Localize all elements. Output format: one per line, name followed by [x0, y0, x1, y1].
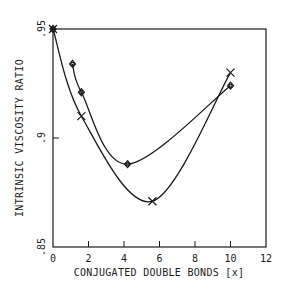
x-tick-label: 0: [50, 253, 56, 264]
x-tick-label: 12: [260, 253, 272, 264]
x-axis-title: CONJUGATED DOUBLE BONDS [x]: [74, 267, 245, 278]
curves: [53, 29, 231, 202]
y-tick-label: .85: [36, 238, 47, 256]
plot-frame: [53, 29, 266, 247]
cross-series-curve: [53, 29, 231, 202]
cross-marker: [77, 112, 85, 120]
x-tick-label: 10: [224, 253, 236, 264]
chart-canvas: 024681012.85.9.95 CONJUGATED DOUBLE BOND…: [0, 0, 285, 296]
y-axis-title: INTRINSIC VISCOSITY RATIO: [14, 59, 25, 217]
diamond-marker-center: [229, 84, 232, 87]
x-tick-label: 6: [156, 253, 162, 264]
y-tick-label: .9: [36, 132, 47, 144]
y-tick-label: .95: [36, 20, 47, 38]
x-tick-label: 2: [85, 253, 91, 264]
markers: [49, 25, 235, 205]
plot-border: [53, 29, 266, 247]
tick-labels: 024681012.85.9.95: [36, 20, 272, 264]
x-tick-label: 8: [192, 253, 198, 264]
diamond-series-curve: [73, 64, 231, 164]
x-tick-label: 4: [121, 253, 127, 264]
axis-ticks: [53, 138, 231, 247]
cross-marker: [227, 69, 235, 77]
